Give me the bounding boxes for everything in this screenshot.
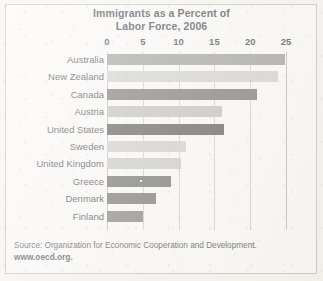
bar-row: Canada <box>0 87 323 104</box>
bar-row: Sweden <box>0 139 323 156</box>
bar-label-canada: Canada <box>0 89 104 100</box>
bar-label-sweden: Sweden <box>0 141 104 152</box>
bar-series: AustraliaNew ZealandCanadaAustriaUnited … <box>0 52 323 230</box>
bar-sweden <box>107 141 186 152</box>
bar-new-zealand <box>107 71 278 82</box>
bar-label-austria: Austria <box>0 106 104 117</box>
bar-label-united-kingdom: United Kingdom <box>0 158 104 169</box>
bar-canada <box>107 89 257 100</box>
bar-united-states <box>107 124 224 135</box>
bar-austria <box>107 106 222 117</box>
bar-row: United States <box>0 122 323 139</box>
greece-bar-marker <box>139 179 143 183</box>
x-tick-label-10: 10 <box>173 36 184 47</box>
bar-label-finland: Finland <box>0 211 104 222</box>
x-tick-label-20: 20 <box>245 36 256 47</box>
bar-row: Greece <box>0 174 323 191</box>
source-note: Source: Organization for Economic Cooper… <box>14 240 257 263</box>
x-tick-label-25: 25 <box>281 36 292 47</box>
bar-row: Finland <box>0 209 323 226</box>
bar-australia <box>107 54 285 65</box>
bar-label-greece: Greece <box>0 176 104 187</box>
bar-united-kingdom <box>107 158 181 169</box>
bar-row: Denmark <box>0 191 323 208</box>
plot-area: 0510152025 AustraliaNew ZealandCanadaAus… <box>0 0 323 281</box>
source-url: www.oecd.org. <box>14 252 257 264</box>
x-axis-tick-labels: 0510152025 <box>0 36 323 48</box>
x-tick-label-5: 5 <box>140 36 145 47</box>
x-tick-label-0: 0 <box>104 36 109 47</box>
bar-label-australia: Australia <box>0 54 104 65</box>
source-line-1: Source: Organization for Economic Cooper… <box>14 240 257 252</box>
bar-label-united-states: United States <box>0 124 104 135</box>
bar-denmark <box>107 193 156 204</box>
bar-row: United Kingdom <box>0 156 323 173</box>
bar-finland <box>107 211 143 222</box>
bar-row: Austria <box>0 104 323 121</box>
bar-row: Australia <box>0 52 323 69</box>
bar-row: New Zealand <box>0 69 323 86</box>
x-tick-label-15: 15 <box>209 36 220 47</box>
bar-label-denmark: Denmark <box>0 193 104 204</box>
bar-label-new-zealand: New Zealand <box>0 71 104 82</box>
